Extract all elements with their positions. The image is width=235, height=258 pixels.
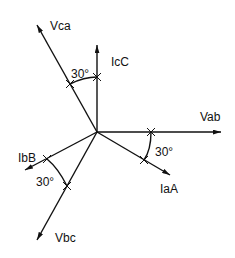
label-vab: Vab <box>200 110 221 124</box>
tick-mark <box>66 80 74 88</box>
tick-mark <box>63 182 71 190</box>
tick-mark <box>43 155 51 163</box>
angle-label-ibb-vbc: 30° <box>36 175 54 189</box>
phasor-diagram: Vab IaA Vbc IbB Vca IcC 30° 30° 30° <box>0 0 235 258</box>
angle-label-vca-icc: 30° <box>71 67 89 81</box>
label-vbc: Vbc <box>55 231 76 245</box>
label-icc: IcC <box>111 55 129 69</box>
tick-mark <box>140 156 148 164</box>
label-ibb: IbB <box>18 151 36 165</box>
angle-label-vab-iaa: 30° <box>155 145 173 159</box>
label-iaa: IaA <box>160 182 178 196</box>
label-vca: Vca <box>50 19 71 33</box>
